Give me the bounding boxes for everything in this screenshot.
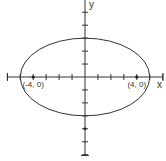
x-axis-label: x [157,79,162,90]
ellipse-diagram: (-4, 0)(4, 0) y x [0,0,166,161]
focus-point [135,75,138,78]
y-axis-label: y [89,0,94,10]
focus-point [32,75,35,78]
marked-point [84,127,87,130]
point-label: (-4, 0) [23,80,45,89]
point-label: (4, 0) [127,80,146,89]
